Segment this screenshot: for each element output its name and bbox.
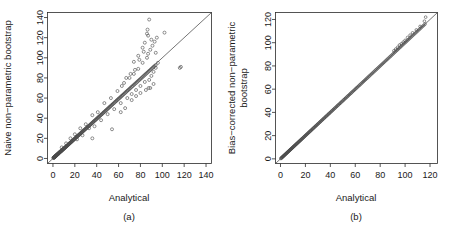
y-axis-ticks-b: 020406080100120 [264,12,276,161]
data-point [91,137,94,140]
scatter-panel-a: 020406080100120140 020406080100120140 An… [0,0,226,229]
data-point [153,40,156,43]
y-tick-label: 20 [264,131,274,141]
y-tick-label: 100 [36,50,46,65]
data-point [132,72,135,75]
data-point [148,78,151,81]
y-axis-title-b-line1: Bias−corrected non−parametric [226,21,237,154]
data-point [149,48,152,51]
data-point [125,76,128,79]
y-tick-label: 60 [264,84,274,94]
data-point [152,70,155,73]
data-point [111,128,114,131]
panel-a-svg: 020406080100120140 020406080100120140 An… [0,0,226,229]
panel-b-plot-area: 020406080100120 020406080100120 [264,12,438,180]
data-point [119,102,122,105]
data-point [132,60,135,63]
data-point [147,52,150,55]
data-point [154,51,157,54]
data-point [155,36,158,39]
data-point [120,84,123,87]
data-point [150,74,153,77]
x-tick-label: 100 [155,170,170,180]
x-tick-label: 0 [50,170,55,180]
x-tick-label: 0 [278,170,283,180]
data-point [137,67,140,70]
data-point [126,97,129,100]
data-point [93,125,96,128]
x-tick-label: 40 [325,170,335,180]
x-axis-ticks-b: 020406080100120 [278,164,438,180]
data-point [141,46,144,49]
data-point [424,16,427,19]
panel-b-svg: 020406080100120 020406080100120 Analytic… [226,0,452,229]
x-axis-ticks-a: 020406080100120140 [50,164,213,180]
data-point [96,111,99,114]
panel-caption-b: (b) [350,211,362,222]
x-tick-label: 20 [300,170,310,180]
data-point [163,31,166,34]
x-axis-title-a: Analytical [109,192,150,203]
y-tick-label: 120 [36,30,46,45]
data-point [130,93,133,96]
data-point [139,92,142,95]
data-point [106,113,109,116]
data-point [133,68,136,71]
data-point [152,82,155,85]
data-point [129,72,132,75]
data-point [116,90,119,93]
figure-container: 020406080100120140 020406080100120140 An… [0,0,452,229]
y-tick-label: 80 [36,73,46,83]
data-point [69,137,72,140]
data-point [103,102,106,105]
data-points-a [52,18,182,159]
scatter-panel-b: 020406080100120 020406080100120 Analytic… [226,0,452,229]
panel-a-plot-area: 020406080100120140 020406080100120140 [36,10,214,179]
data-point [138,58,141,61]
y-tick-label: 0 [264,156,274,161]
data-point [139,84,142,87]
data-point [91,114,94,117]
data-point [128,76,131,79]
x-tick-label: 100 [398,170,413,180]
data-point [135,89,138,92]
data-point [143,41,146,44]
y-tick-label: 20 [36,133,46,143]
x-tick-label: 40 [92,170,102,180]
x-tick-label: 120 [423,170,438,180]
data-point [151,44,154,47]
y-axis-title-b-line2: bootstrap [238,68,249,108]
y-tick-label: 100 [264,35,274,50]
data-point [123,81,126,84]
y-tick-label: 60 [36,93,46,103]
data-point [423,20,426,23]
y-tick-label: 120 [264,12,274,27]
x-tick-label: 60 [114,170,124,180]
data-point [73,133,76,136]
data-point [135,95,138,98]
data-point [84,123,87,126]
data-point [79,127,82,130]
data-point [143,80,146,83]
x-tick-label: 20 [70,170,80,180]
data-point [119,111,122,114]
data-point [124,107,127,110]
y-tick-label: 40 [36,113,46,123]
data-point [145,56,148,59]
y-axis-title-a: Naive non−parametric bootstrap [2,20,13,155]
y-tick-label: 80 [264,61,274,71]
data-point [150,38,153,41]
data-point [113,108,116,111]
data-point [100,119,103,122]
data-point [130,99,133,102]
y-tick-label: 40 [264,107,274,117]
x-tick-label: 120 [177,170,192,180]
data-point [137,54,140,57]
x-tick-label: 140 [199,170,214,180]
data-point [142,50,145,53]
data-point [81,134,84,137]
x-tick-label: 80 [135,170,145,180]
x-axis-title-b: Analytical [336,192,377,203]
x-tick-label: 60 [350,170,360,180]
y-tick-label: 0 [36,156,46,161]
